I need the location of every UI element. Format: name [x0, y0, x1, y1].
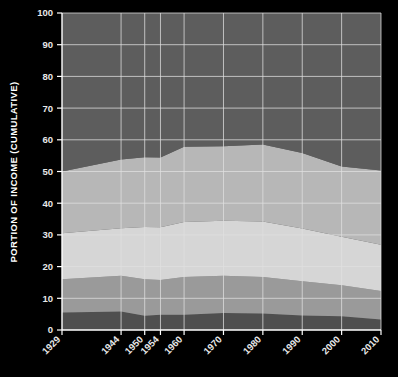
y-tick-label: 70	[42, 103, 53, 114]
y-tick-label: 60	[42, 134, 53, 145]
y-tick-label: 80	[42, 71, 53, 82]
y-tick-label: 20	[42, 261, 53, 272]
y-tick-label: 40	[42, 198, 53, 209]
y-tick-label: 10	[42, 293, 53, 304]
y-tick-label: 50	[42, 166, 53, 177]
y-axis-label: PORTION OF INCOME (CUMULATIVE)	[8, 82, 19, 263]
chart-canvas: 0102030405060708090100 19291944195019541…	[0, 0, 398, 377]
y-tick-label: 30	[42, 229, 53, 240]
stacked-area-chart: 0102030405060708090100 19291944195019541…	[0, 0, 398, 377]
y-tick-label: 90	[42, 39, 53, 50]
y-tick-label: 0	[48, 324, 53, 335]
y-tick-label: 100	[37, 7, 53, 18]
